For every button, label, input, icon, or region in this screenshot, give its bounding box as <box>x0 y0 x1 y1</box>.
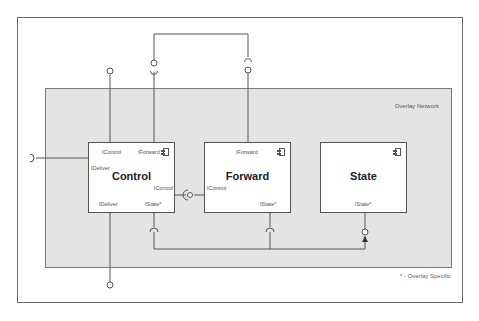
port-istate-bottom: IState* <box>260 201 277 207</box>
component-icon <box>163 148 169 156</box>
port-icontrol-top: IControl <box>102 149 121 155</box>
component-title: Control <box>89 170 174 182</box>
component-title: Forward <box>205 170 290 182</box>
component-title: State <box>321 170 406 182</box>
footnote: * - Overlay Specific <box>400 273 451 279</box>
component-control[interactable]: IControl IForward IDeliver Control ICont… <box>88 142 175 213</box>
port-icontrol-left: IControl <box>207 185 226 191</box>
port-icontrol-right: IControl <box>154 185 173 191</box>
component-forward[interactable]: IForward Forward IControl IState* <box>204 142 291 213</box>
component-icon <box>395 148 401 156</box>
component-icon <box>279 148 285 156</box>
port-istate-bottom: IState* <box>145 201 162 207</box>
port-iforward-top: IForward <box>138 149 160 155</box>
port-iforward-top: IForward <box>236 149 258 155</box>
component-state[interactable]: State IState* <box>320 142 407 213</box>
port-ideliver-bottom: IDeliver <box>99 201 118 207</box>
port-istate-bottom: IState* <box>355 201 372 207</box>
